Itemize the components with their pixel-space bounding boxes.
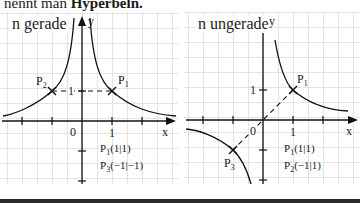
legend-right: P1(1|1) P2(−1|1) (284, 142, 321, 176)
curve-first-quadrant (275, 40, 348, 111)
legend-item: P1(1|1) (100, 142, 143, 159)
x-axis-label: x (162, 126, 168, 138)
point-label-p1: P1 (118, 74, 129, 89)
legend-item: P2(−1|1) (284, 159, 321, 176)
legend-item: P1(1|1) (284, 142, 321, 159)
panel-title-right: n ungerade (196, 15, 271, 33)
panel-title-left: n gerade (10, 15, 69, 33)
y-axis-label: y (269, 15, 275, 27)
intro-text: nennt man Hyperbeln. (4, 0, 143, 12)
legend-item: P3(−1|−1) (100, 159, 143, 176)
x-axis-label: x (346, 125, 352, 137)
point-label-p3: P3 (224, 157, 235, 172)
point-label-p2: P2 (36, 75, 47, 90)
y-tick-1-label: 1 (68, 85, 74, 97)
origin-label: 0 (250, 125, 256, 137)
curve-third-quadrant (186, 129, 251, 184)
x-tick-1-label: 1 (109, 127, 115, 139)
graph-left-plot (0, 12, 178, 184)
x-tick-1-label: 1 (290, 126, 296, 138)
legend-left: P1(1|1) P3(−1|−1) (100, 142, 143, 176)
term-hyperbeln: Hyperbeln. (71, 0, 143, 11)
x-axis-arrow-icon (166, 117, 176, 125)
y-axis-arrow-icon (78, 16, 86, 26)
point-label-p1: P1 (297, 73, 308, 88)
curve-right-branch (90, 18, 176, 116)
graph-right-plot (184, 12, 360, 184)
origin-label: 0 (70, 126, 76, 138)
graph-n-gerade: n gerade y x 0 1 1 P1 P2 P1(1|1) P3(−1|−… (0, 12, 178, 184)
y-axis-label: y (88, 15, 94, 27)
bottom-divider (0, 199, 360, 203)
y-tick-1-label: 1 (250, 84, 256, 96)
x-axis-arrow-icon (348, 116, 358, 124)
graph-n-ungerade: n ungerade y x 0 1 1 P1 P3 P1(1|1) P2(−1… (184, 12, 360, 184)
